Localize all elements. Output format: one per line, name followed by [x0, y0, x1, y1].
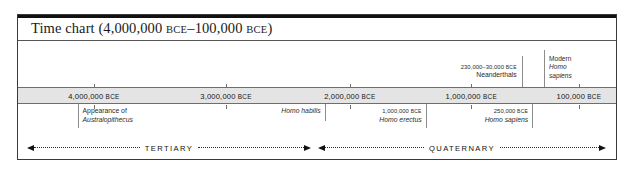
neanderthals-name: Neanderthals	[367, 71, 517, 79]
axis-tick-top-2	[226, 84, 227, 88]
homo-sapiens-date-era: BCE	[517, 108, 528, 114]
lower-event-band: Appearance of Australopithecus Homo habi…	[18, 104, 616, 136]
title-bce-a: BCE	[166, 24, 187, 35]
axis-tick-label-3-era: BCE	[362, 93, 376, 100]
page-title: Time chart (4,000,000 BCE–100,000 BCE)	[31, 20, 272, 37]
timeline-axis: 4,000,000 BCE 3,000,000 BCE 2,000,000 BC…	[18, 87, 616, 104]
homo-sapiens-date-value: 250,000	[494, 108, 516, 114]
upper-event-neanderthals: 230,000–30,000 BCE Neanderthals	[367, 63, 517, 80]
title-segment-c: )	[268, 20, 273, 36]
lower-event-homo-sapiens: 250,000 BCE Homo sapiens	[398, 107, 528, 124]
time-chart-frame: Time chart (4,000,000 BCE–100,000 BCE) 2…	[17, 14, 617, 160]
axis-tick-label-2-num: 3,000,000	[200, 92, 235, 101]
axis-tick-top-3	[350, 84, 351, 88]
tertiary-left-arrow-icon	[27, 145, 34, 151]
quaternary-dash-right	[500, 147, 599, 149]
homo-sapiens-date: 250,000 BCE	[398, 107, 528, 116]
axis-tick-label-3: 2,000,000 BCE	[324, 92, 375, 101]
axis-tick-label-4: 1,000,000 BCE	[446, 92, 497, 101]
axis-tick-top-5	[579, 84, 580, 88]
axis-tick-top-4	[471, 84, 472, 88]
quaternary-left-arrow-icon	[318, 145, 325, 151]
era-tertiary-label: TERTIARY	[140, 144, 198, 153]
axis-tick-label-1-era: BCE	[106, 93, 120, 100]
quaternary-right-arrow-icon	[599, 145, 606, 151]
axis-tick-top-1	[94, 84, 95, 88]
title-segment-b: –100,000	[187, 20, 246, 36]
upper-rule-neanderthals	[522, 56, 523, 87]
axis-tick-label-1-num: 4,000,000	[68, 92, 103, 101]
upper-event-modern-homo-sapiens: Modern Homo sapiens	[549, 55, 619, 80]
title-bce-b: BCE	[246, 24, 267, 35]
era-quaternary: QUATERNARY	[318, 136, 606, 160]
chart-title-bar: Time chart (4,000,000 BCE–100,000 BCE)	[18, 18, 616, 41]
quaternary-dash-left	[325, 147, 424, 149]
era-tertiary: TERTIARY	[27, 136, 311, 160]
lower-rule-australopithecus	[78, 104, 79, 128]
axis-tick-label-2: 3,000,000 BCE	[200, 92, 251, 101]
homo-sapiens-name: Homo sapiens	[398, 116, 528, 125]
axis-tick-label-2-era: BCE	[238, 93, 252, 100]
modern-line-3: sapiens	[549, 72, 619, 80]
upper-event-band: 230,000–30,000 BCE Neanderthals Modern H…	[18, 42, 616, 87]
title-segment-a: Time chart (4,000,000	[31, 20, 166, 36]
neanderthals-date-era: BCE	[506, 64, 517, 70]
neanderthals-date: 230,000–30,000 BCE	[367, 63, 517, 71]
tertiary-dash-right	[198, 147, 304, 149]
australopithecus-line-2: Australopithecus	[83, 116, 213, 125]
era-quaternary-label: QUATERNARY	[424, 144, 500, 153]
tertiary-right-arrow-icon	[304, 145, 311, 151]
axis-tick-label-5-era: BCE	[587, 93, 601, 100]
axis-tick-label-5-num: 100,000	[557, 92, 586, 101]
lower-rule-homo-sapiens	[532, 104, 533, 128]
modern-line-1: Modern	[549, 55, 619, 63]
geologic-era-band: TERTIARY QUATERNARY	[18, 136, 616, 160]
modern-line-2: Homo	[549, 63, 619, 71]
upper-rule-modern-homo-sapiens	[544, 50, 545, 87]
axis-tick-label-5: 100,000 BCE	[557, 92, 602, 101]
axis-tick-label-3-num: 2,000,000	[324, 92, 359, 101]
axis-tick-label-4-era: BCE	[483, 93, 497, 100]
neanderthals-date-value: 230,000–30,000	[461, 64, 504, 70]
tertiary-dash-left	[34, 147, 140, 149]
axis-tick-label-1: 4,000,000 BCE	[68, 92, 119, 101]
axis-tick-label-4-num: 1,000,000	[446, 92, 481, 101]
